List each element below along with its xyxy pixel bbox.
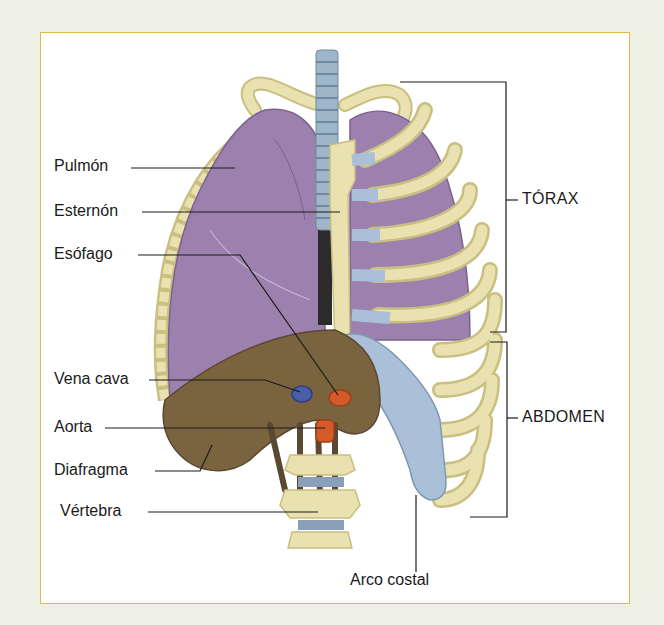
aorta-icon — [316, 420, 334, 442]
thorax-illustration — [0, 0, 664, 625]
vena-cava-icon — [292, 386, 312, 402]
vertebra-icon — [280, 455, 360, 548]
label-esternon: Esternón — [54, 203, 118, 219]
label-torax: TÓRAX — [522, 191, 579, 207]
label-aorta: Aorta — [54, 419, 92, 435]
label-abdomen: ABDOMEN — [522, 409, 605, 425]
label-esofago: Esófago — [54, 246, 113, 262]
esophagus-icon — [329, 390, 351, 406]
label-vena-cava: Vena cava — [54, 371, 129, 387]
label-arco-costal: Arco costal — [350, 572, 429, 588]
label-pulmon: Pulmón — [54, 158, 108, 174]
label-diafragma: Diafragma — [54, 462, 128, 478]
label-vertebra: Vértebra — [60, 503, 121, 519]
